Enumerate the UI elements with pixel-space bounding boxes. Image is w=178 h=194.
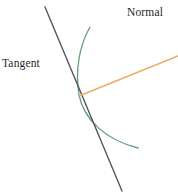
tangent-line bbox=[45, 7, 122, 191]
tangent-line-group bbox=[45, 7, 122, 191]
figure-canvas bbox=[0, 0, 178, 194]
normal-line bbox=[79, 56, 178, 96]
normal-line-group bbox=[79, 56, 178, 96]
curve-path bbox=[77, 27, 138, 148]
normal-label: Normal bbox=[127, 7, 163, 19]
geometry-figure: Tangent Normal bbox=[0, 0, 178, 194]
curve-group bbox=[77, 27, 138, 148]
tangent-label: Tangent bbox=[2, 58, 40, 70]
